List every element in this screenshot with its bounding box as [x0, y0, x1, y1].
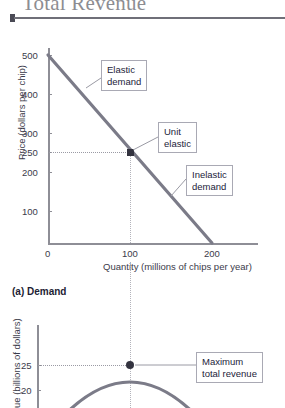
callout-maximum-total-revenue-line1: Maximum: [202, 356, 257, 368]
figure-root: Total Revenue 500 400 300 250 200 100 0 …: [0, 0, 285, 408]
panel-b-leader-max-svg: [0, 0, 285, 408]
callout-maximum-total-revenue-line2: total revenue: [202, 368, 257, 380]
callout-maximum-total-revenue: Maximum total revenue: [196, 352, 263, 383]
